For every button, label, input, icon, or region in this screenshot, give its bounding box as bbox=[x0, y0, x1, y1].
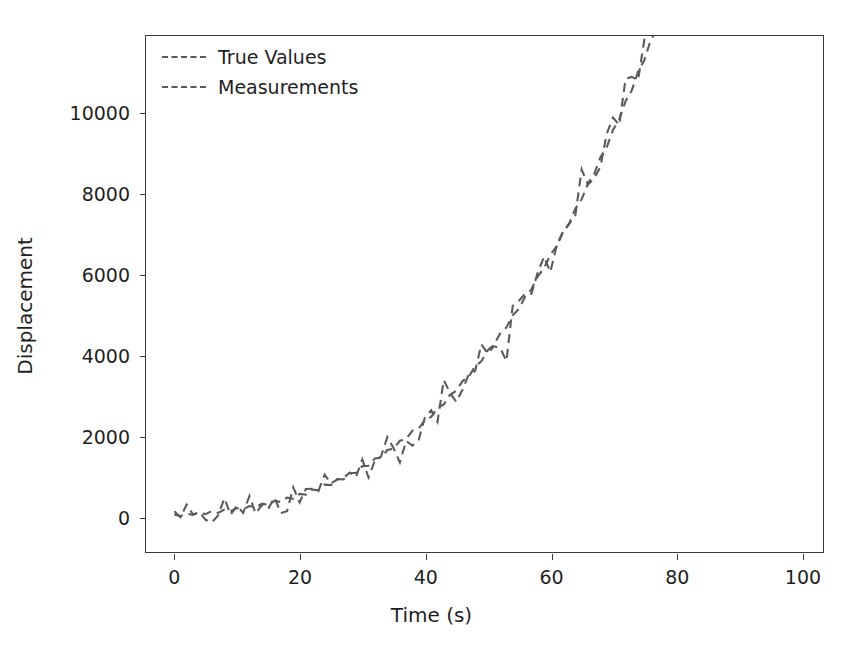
x-tick-mark bbox=[174, 554, 175, 560]
legend-swatch-measurements bbox=[162, 86, 206, 88]
x-tick-mark bbox=[552, 554, 553, 560]
x-tick-mark bbox=[300, 554, 301, 560]
series-group-true-values bbox=[174, 36, 788, 516]
y-tick-mark bbox=[140, 518, 146, 519]
y-tick-mark bbox=[140, 194, 146, 195]
y-tick-mark bbox=[140, 356, 146, 357]
legend-swatch-true-values bbox=[162, 56, 206, 58]
x-tick-label: 60 bbox=[539, 566, 563, 588]
legend-label-measurements: Measurements bbox=[218, 76, 358, 98]
legend: True Values Measurements bbox=[162, 46, 358, 98]
x-tick-label: 80 bbox=[665, 566, 689, 588]
x-tick-label: 0 bbox=[168, 566, 180, 588]
legend-label-true-values: True Values bbox=[218, 46, 326, 68]
y-tick-mark bbox=[140, 113, 146, 114]
x-axis-label: Time (s) bbox=[0, 603, 863, 627]
x-tick-mark bbox=[677, 554, 678, 560]
x-tick-mark bbox=[426, 554, 427, 560]
y-tick-mark bbox=[140, 437, 146, 438]
figure-canvas: True Values Measurements 020004000600080… bbox=[0, 0, 863, 646]
x-tick-label: 40 bbox=[414, 566, 438, 588]
y-tick-mark bbox=[140, 275, 146, 276]
series-group-measurements bbox=[174, 36, 788, 522]
plot-svg bbox=[146, 36, 823, 552]
x-tick-label: 20 bbox=[288, 566, 312, 588]
y-tick-label: 10000 bbox=[16, 102, 130, 124]
legend-item-measurements: Measurements bbox=[162, 76, 358, 98]
x-tick-label: 100 bbox=[785, 566, 821, 588]
plot-area: True Values Measurements 020004000600080… bbox=[145, 35, 824, 553]
line-measurements bbox=[174, 36, 788, 522]
x-tick-mark bbox=[803, 554, 804, 560]
y-tick-label: 0 bbox=[16, 507, 130, 529]
legend-item-true-values: True Values bbox=[162, 46, 358, 68]
y-axis-label: Displacement bbox=[13, 146, 37, 466]
line-true-values bbox=[174, 36, 788, 516]
